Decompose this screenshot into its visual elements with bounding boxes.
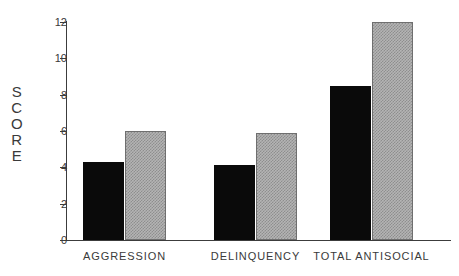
bar <box>125 131 166 240</box>
bar <box>372 22 413 240</box>
x-axis-category-label: TOTAL ANTISOCIAL <box>292 250 452 262</box>
y-axis-tick-label: 0 <box>41 234 67 246</box>
bar <box>330 86 371 240</box>
bar <box>214 165 255 240</box>
plot-area: 024681012 AGGRESSIONDELINQUENCYTOTAL ANT… <box>0 0 459 276</box>
y-axis-tick-label: 12 <box>41 16 67 28</box>
bar <box>256 133 297 240</box>
bar <box>83 162 124 240</box>
bar-chart: S C O R E 024681012 AGGRESSIONDELINQUENC… <box>0 0 459 276</box>
x-axis-line <box>66 240 451 241</box>
y-axis-tick-label: 4 <box>41 161 67 173</box>
y-axis-tick-label: 10 <box>41 52 67 64</box>
y-axis-tick-label: 6 <box>41 125 67 137</box>
y-axis-tick-label: 8 <box>41 89 67 101</box>
y-axis-tick-label: 2 <box>41 198 67 210</box>
